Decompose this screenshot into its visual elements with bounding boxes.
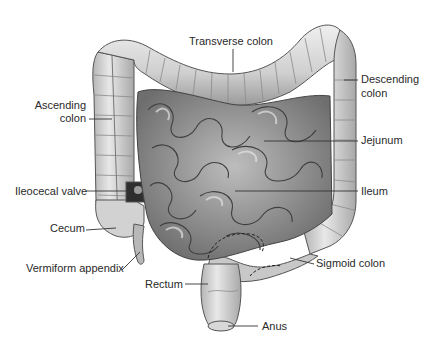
label-ileocecal-valve: Ileocecal valve — [15, 185, 87, 198]
rectum — [201, 264, 241, 330]
label-cecum: Cecum — [50, 222, 85, 235]
label-descending-colon-line2: colon — [361, 87, 387, 100]
intestine-diagram: Transverse colon Ascending colon Descend… — [0, 0, 429, 347]
label-ascending-colon-line2: colon — [34, 112, 86, 125]
intestine-illustration — [0, 0, 429, 347]
label-descending-colon-line1: Descending — [361, 73, 419, 86]
label-vermiform-appendix: Vermiform appendix — [26, 262, 124, 275]
appendix — [133, 224, 144, 264]
label-transverse-colon: Transverse colon — [189, 35, 273, 48]
label-rectum: Rectum — [145, 278, 183, 291]
label-jejunum: Jejunum — [361, 134, 403, 147]
label-ileum: Ileum — [361, 185, 388, 198]
label-sigmoid-colon: Sigmoid colon — [316, 257, 385, 270]
label-ascending-colon-line1: Ascending — [34, 99, 86, 112]
label-anus: Anus — [262, 320, 287, 333]
